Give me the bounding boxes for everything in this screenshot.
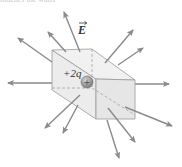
field-label: E — [77, 22, 87, 38]
field-arrow-upper-left-icon — [48, 32, 66, 52]
gauss-law-figure: + +2q E — [0, 0, 182, 167]
field-vector-label: E — [77, 23, 86, 37]
field-arrow-right-upper-icon — [118, 48, 143, 65]
closed-surface-box — [52, 49, 135, 119]
box-front-face — [96, 79, 135, 119]
field-arrow-left-diagonal-icon — [18, 38, 52, 62]
field-arrow-down-icon — [107, 120, 119, 158]
plus-sign-icon: + — [84, 77, 90, 88]
point-charge: + — [81, 76, 93, 88]
charge-label: +2q — [63, 67, 82, 79]
